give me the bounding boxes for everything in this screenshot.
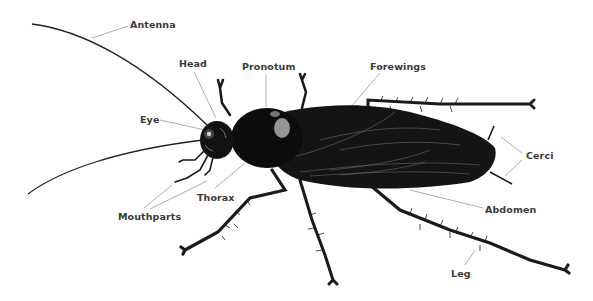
label-mouthparts: Mouthparts xyxy=(118,211,181,222)
label-forewings: Forewings xyxy=(370,61,426,72)
leader-thorax xyxy=(215,163,245,188)
label-eye: Eye xyxy=(140,114,159,125)
label-abdomen: Abdomen xyxy=(485,204,536,215)
antennae xyxy=(28,24,207,194)
leader-mouthparts-1 xyxy=(144,185,172,208)
cockroach-anatomy-diagram: Antenna Head Pronotum Forewings Eye Cerc… xyxy=(0,0,593,301)
leader-abdomen xyxy=(410,190,483,208)
leader-leg xyxy=(465,250,475,265)
cockroach-illustration xyxy=(0,0,593,301)
leader-head xyxy=(194,72,216,118)
leader-antenna xyxy=(92,26,128,38)
label-thorax: Thorax xyxy=(197,192,235,203)
label-head: Head xyxy=(179,58,207,69)
head-shape xyxy=(200,121,234,159)
label-pronotum: Pronotum xyxy=(242,61,295,72)
leader-forewings xyxy=(350,73,380,108)
leader-cerci-upper xyxy=(501,137,522,153)
pronotum-shape xyxy=(231,108,303,168)
label-leg: Leg xyxy=(451,268,471,279)
label-cerci: Cerci xyxy=(526,150,554,161)
leader-cerci-lower xyxy=(505,160,522,176)
leader-eye xyxy=(160,120,205,130)
mouthparts-shape xyxy=(175,150,213,182)
label-antenna: Antenna xyxy=(130,19,176,30)
